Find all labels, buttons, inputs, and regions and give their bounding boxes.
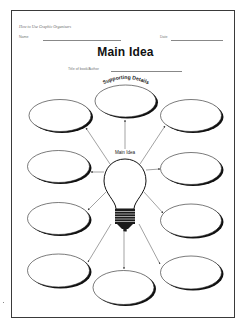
supporting-details-label: Supporting Details xyxy=(102,74,151,85)
main-idea-diagram: Supporting Details xyxy=(0,0,251,333)
oval-middle-right[interactable] xyxy=(161,153,224,187)
oval-lower-right[interactable] xyxy=(161,204,224,239)
center-main-idea-label: Main Idea xyxy=(115,150,136,155)
oval-top-left[interactable] xyxy=(29,100,93,134)
oval-top-center[interactable] xyxy=(95,85,158,119)
lightbulb-icon xyxy=(104,159,146,232)
oval-middle-left[interactable] xyxy=(28,151,92,185)
oval-lower-left[interactable] xyxy=(28,203,92,237)
oval-bottom-right[interactable] xyxy=(161,256,224,291)
oval-bottom-left[interactable] xyxy=(28,254,92,289)
oval-top-right[interactable] xyxy=(161,100,224,134)
oval-bottom-center[interactable] xyxy=(93,271,156,307)
